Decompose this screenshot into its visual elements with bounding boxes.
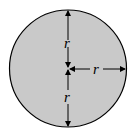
circle-diagram: r r r [0,0,134,136]
upper-radius-label: r [64,35,70,51]
lower-radius-label: r [64,89,70,105]
right-radius-label: r [93,61,99,77]
diagram-canvas: r r r [0,0,134,136]
